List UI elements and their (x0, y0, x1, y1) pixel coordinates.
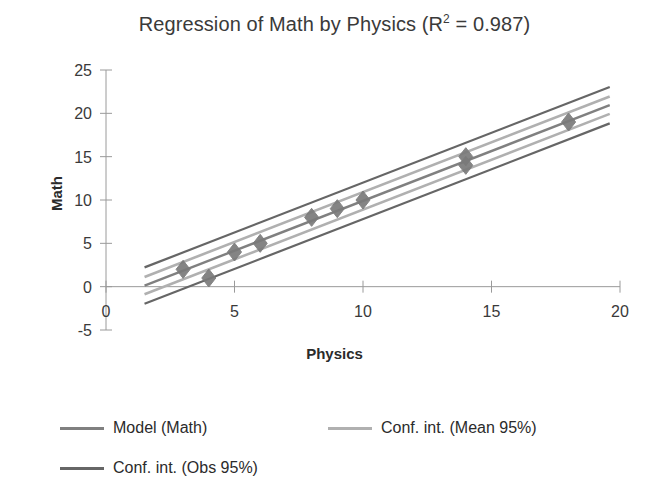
data-point-marker (330, 200, 344, 218)
y-tick-label: -5 (78, 322, 92, 339)
legend-swatch-conf-obs (60, 467, 104, 470)
y-tick-label: 5 (83, 235, 92, 252)
y-tick-label: 0 (83, 279, 92, 296)
y-tick-label: 25 (74, 62, 92, 79)
legend-item-model[interactable]: Model (Math) (60, 419, 328, 437)
y-axis-label: Math (48, 164, 65, 224)
x-tick-label: 15 (483, 303, 501, 320)
legend-swatch-model (60, 427, 104, 430)
legend-row-2: Conf. int. (Obs 95%) (60, 448, 660, 488)
x-axis-label: Physics (0, 345, 669, 362)
x-tick-label: 0 (102, 303, 111, 320)
plot-area: 2520151050-505101520 (0, 0, 669, 400)
legend-label-conf-obs: Conf. int. (Obs 95%) (113, 459, 258, 477)
chart-legend: Model (Math) Conf. int. (Mean 95%) Conf.… (60, 408, 660, 488)
x-tick-label: 10 (354, 303, 372, 320)
regression-chart: Regression of Math by Physics (R2 = 0.98… (0, 0, 669, 501)
legend-label-model: Model (Math) (113, 419, 207, 437)
legend-item-conf-mean[interactable]: Conf. int. (Mean 95%) (328, 419, 537, 437)
data-point-marker (253, 234, 267, 252)
x-tick-label: 5 (230, 303, 239, 320)
y-tick-label: 10 (74, 192, 92, 209)
y-tick-label: 15 (74, 149, 92, 166)
legend-label-conf-mean: Conf. int. (Mean 95%) (381, 419, 537, 437)
x-tick-label: 20 (611, 303, 629, 320)
legend-swatch-conf-mean (328, 427, 372, 430)
legend-item-conf-obs[interactable]: Conf. int. (Obs 95%) (60, 459, 328, 477)
legend-row-1: Model (Math) Conf. int. (Mean 95%) (60, 408, 660, 448)
y-tick-label: 20 (74, 105, 92, 122)
